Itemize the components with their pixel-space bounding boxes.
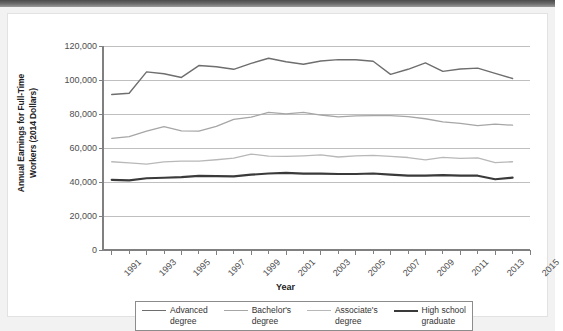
x-tick-label: 2013 xyxy=(505,257,526,278)
legend-label: High school graduate xyxy=(422,305,466,327)
legend-label: Bachelor's degree xyxy=(252,305,291,327)
legend-line-swatch-icon xyxy=(142,310,166,311)
x-tick-label: 2007 xyxy=(400,257,421,278)
x-tick-label: 2001 xyxy=(296,257,317,278)
x-tick-label: 2015 xyxy=(540,257,561,278)
legend-line-swatch-icon xyxy=(307,310,331,311)
legend-line-swatch-icon xyxy=(224,310,248,311)
x-axis-title: Year xyxy=(8,282,563,292)
legend-entry-1[interactable]: Bachelor's degree xyxy=(224,305,291,327)
legend-line-swatch-icon xyxy=(394,310,418,312)
x-tick-label: 2005 xyxy=(366,257,387,278)
legend-entry-2[interactable]: Associate's degree xyxy=(307,305,378,327)
x-tick-label: 2011 xyxy=(470,257,491,278)
x-tick-label: 1991 xyxy=(122,257,143,278)
x-tick-label: 1993 xyxy=(156,257,177,278)
x-tick-label: 2009 xyxy=(435,257,456,278)
legend-entry-3[interactable]: High school graduate xyxy=(394,305,466,327)
x-tick-label: 1999 xyxy=(261,257,282,278)
legend-label: Associate's degree xyxy=(335,305,378,327)
chart-figure: Annual Earnings for Full-Time Workers (2… xyxy=(7,13,548,317)
legend-label: Advanced degree xyxy=(170,305,208,327)
x-tick-label: 1997 xyxy=(226,257,247,278)
x-tick-label: 1995 xyxy=(191,257,212,278)
window-chrome-bar xyxy=(0,0,555,7)
legend-entry-0[interactable]: Advanced degree xyxy=(142,305,208,327)
x-tick-label: 2003 xyxy=(331,257,352,278)
chart-legend: Advanced degreeBachelor's degreeAssociat… xyxy=(135,301,473,331)
